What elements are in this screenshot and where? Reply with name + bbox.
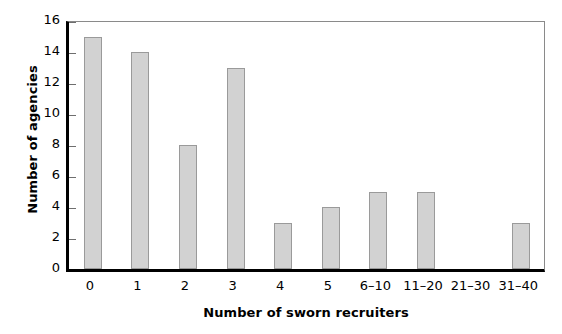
plot-inner bbox=[69, 22, 544, 269]
plot-area bbox=[66, 21, 545, 272]
y-axis-tick bbox=[69, 146, 76, 147]
y-axis-tick-label: 2 bbox=[18, 229, 60, 244]
y-axis-tick bbox=[69, 239, 76, 240]
y-axis-tick bbox=[69, 177, 76, 178]
y-axis-tick-label: 6 bbox=[18, 167, 60, 182]
y-axis-tick-label: 8 bbox=[18, 136, 60, 151]
y-axis-tick bbox=[69, 22, 76, 23]
bar bbox=[84, 37, 102, 270]
y-axis-tick bbox=[69, 208, 76, 209]
bar-chart-figure: Number of agencies Number of sworn recru… bbox=[0, 0, 562, 334]
y-axis-tick-label: 4 bbox=[18, 198, 60, 213]
y-axis-tick-label: 10 bbox=[18, 105, 60, 120]
bar bbox=[131, 52, 149, 269]
bar bbox=[179, 145, 197, 269]
y-axis-tick bbox=[69, 84, 76, 85]
y-axis-tick-label: 14 bbox=[18, 43, 60, 58]
bar bbox=[369, 192, 387, 270]
x-axis-tick-label: 31–40 bbox=[483, 278, 553, 293]
bar bbox=[227, 68, 245, 270]
x-axis-title: Number of sworn recruiters bbox=[66, 305, 546, 320]
bar bbox=[322, 207, 340, 269]
y-axis-tick-label: 12 bbox=[18, 74, 60, 89]
bar bbox=[512, 223, 530, 270]
y-axis-tick-label: 0 bbox=[18, 260, 60, 275]
bar bbox=[274, 223, 292, 270]
bar bbox=[417, 192, 435, 270]
y-axis-tick bbox=[69, 53, 76, 54]
y-axis-tick-label: 16 bbox=[18, 12, 60, 27]
y-axis-tick bbox=[69, 115, 76, 116]
